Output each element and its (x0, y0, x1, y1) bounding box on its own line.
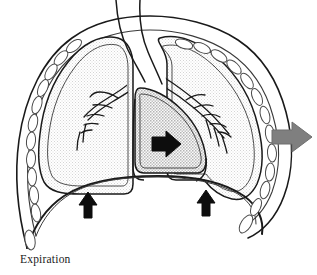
rib-segment (25, 132, 36, 151)
rib-segment (29, 186, 40, 205)
diaphragm-right-arrow-icon (197, 190, 215, 216)
rib-segment (27, 168, 37, 186)
rib-segment (267, 144, 277, 162)
diaphragm-left-arrow-icon (79, 192, 97, 218)
rib-segment (26, 150, 36, 168)
rib-segment (236, 213, 255, 235)
figure-caption: Expiration (20, 253, 71, 266)
expiration-figure: Expiration (0, 0, 317, 275)
rib-segment (27, 113, 40, 132)
rib-segment (258, 105, 272, 125)
rib-segment (248, 197, 264, 217)
thorax-diagram (0, 0, 317, 275)
rib-segment (265, 163, 276, 182)
rib-segment (30, 95, 44, 115)
